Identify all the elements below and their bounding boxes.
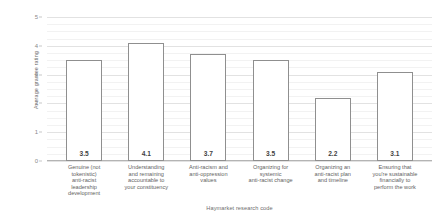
y-axis-tick-label: 0 [35,158,38,165]
y-axis-tick-mark [39,17,42,18]
gridline-major [47,161,432,162]
bar[interactable]: 3.5 [66,60,102,161]
x-axis-category-label: Understandingand remainingaccountable to… [115,164,177,206]
bar-chart: Average grantee rating 012345 3.54.13.73… [0,0,439,219]
x-axis-category-label: Anti-racism andanti-oppressionvalues [177,164,239,206]
y-axis-tick-label: 3 [35,71,38,78]
bar-value-label: 3.1 [390,150,399,158]
x-axis-category-label: Ensuring thatyou're sustainablefinancial… [364,164,426,206]
bar-value-label: 4.1 [142,150,151,158]
x-axis-category-label: Organizing forsystemicanti-racist change [240,164,302,206]
bar-series: 3.54.13.73.52.23.1 [47,17,432,161]
bar-slot: 2.2 [302,17,364,161]
bar-slot: 3.1 [364,17,426,161]
x-axis-category-labels: Genuine (nottokenistic)anti-racistleader… [47,164,432,206]
bar[interactable]: 4.1 [128,43,164,161]
y-axis-tick-mark [39,45,42,46]
y-axis-tick-mark [39,161,42,162]
bar-value-label: 3.7 [204,150,213,158]
plot-area: 3.54.13.73.52.23.1 [47,17,432,161]
bar-value-label: 2.2 [328,150,337,158]
bar[interactable]: 3.1 [377,72,413,161]
bar-slot: 3.5 [240,17,302,161]
x-axis-category-label: Genuine (nottokenistic)anti-racistleader… [53,164,115,206]
x-axis-title: Haymarket research code [47,205,432,211]
bar[interactable]: 3.5 [253,60,289,161]
bar[interactable]: 3.7 [190,54,226,161]
x-axis-category-label: Organizing ananti-racist planand timelin… [302,164,364,206]
y-axis-tick-mark [39,132,42,133]
y-axis-tick-label: 1 [35,129,38,136]
y-axis-tick-mark [39,103,42,104]
bar-slot: 3.5 [53,17,115,161]
y-axis-tick-label: 2 [35,100,38,107]
y-axis-tick-label: 4 [35,42,38,49]
y-axis-tick-mark [39,74,42,75]
bar-slot: 3.7 [177,17,239,161]
y-axis-tick-label: 5 [35,14,38,21]
bar-value-label: 3.5 [79,150,88,158]
y-axis-ticks: 012345 [0,17,45,161]
bar-value-label: 3.5 [266,150,275,158]
bar-slot: 4.1 [115,17,177,161]
bar[interactable]: 2.2 [315,98,351,161]
